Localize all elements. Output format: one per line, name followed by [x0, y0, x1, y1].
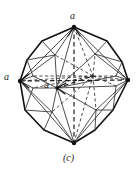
- edge-ll-to-outline-w: [25, 110, 52, 112]
- axis-label-a-vertical: a: [70, 11, 75, 21]
- crystal-figure: a a a (c): [0, 0, 137, 170]
- edge-ll-to-front: [52, 88, 57, 112]
- edge-apex-to-front: [57, 27, 74, 88]
- edge-apex-to-right: [74, 27, 128, 80]
- edge-ul-to-front: [55, 55, 57, 88]
- vertex-dot-bottom: [72, 141, 76, 145]
- figure-caption: (c): [0, 152, 137, 163]
- vertex-dot-right: [126, 78, 130, 82]
- axis-label-a-diagonal: a: [44, 80, 49, 90]
- edge-lr-to-outline-se: [95, 110, 96, 130]
- crystal-drawing: [0, 0, 137, 170]
- hidden-back-to-ll: [52, 76, 93, 112]
- hidden-back-to-ur: [93, 54, 95, 76]
- edge-ur-to-outline-ne: [95, 41, 107, 54]
- hidden-back-to-lr: [93, 76, 96, 110]
- edge-base-to-right: [74, 80, 128, 143]
- edge-apex-to-left: [20, 27, 74, 81]
- edge-lr-to-right: [96, 80, 128, 110]
- edge-ll-to-outline-sw: [44, 112, 52, 130]
- edge-base-to-lr: [74, 110, 96, 143]
- axis-label-a-horizontal: a: [4, 72, 9, 82]
